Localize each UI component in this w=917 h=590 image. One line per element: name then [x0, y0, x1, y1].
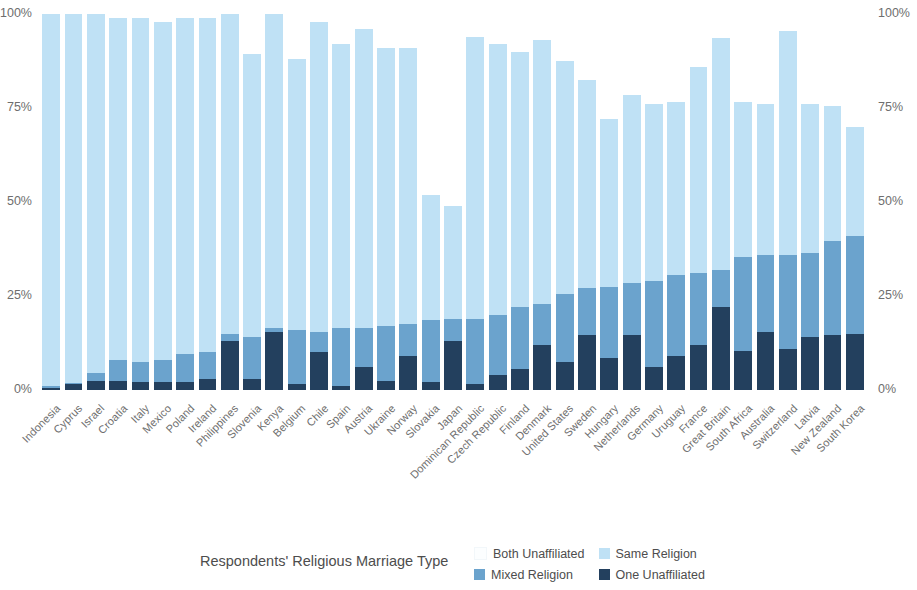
- bar-new-zealand[interactable]: [824, 14, 842, 390]
- bar-uruguay[interactable]: [667, 14, 685, 390]
- segment-mixed-religion: [422, 320, 440, 382]
- segment-same-religion: [846, 127, 864, 236]
- segment-mixed-religion: [399, 324, 417, 356]
- bar-sweden[interactable]: [578, 14, 596, 390]
- bar-hungary[interactable]: [600, 14, 618, 390]
- legend-items: Both UnaffiliatedSame ReligionMixed Reli…: [474, 543, 705, 585]
- segment-same-religion: [399, 48, 417, 324]
- bar-united-states[interactable]: [556, 14, 574, 390]
- legend-title: Respondents' Religious Marriage Type: [200, 553, 448, 569]
- segment-same-religion: [489, 44, 507, 315]
- bar-austria[interactable]: [355, 14, 373, 390]
- segment-mixed-religion: [623, 283, 641, 336]
- bar-poland[interactable]: [176, 14, 194, 390]
- bar-kenya[interactable]: [265, 14, 283, 390]
- bar-switzerland[interactable]: [779, 14, 797, 390]
- bar-croatia[interactable]: [109, 14, 127, 390]
- segment-same-religion: [824, 106, 842, 241]
- bar-netherlands[interactable]: [623, 14, 641, 390]
- legend-item-label: Mixed Religion: [491, 568, 573, 582]
- segment-same-religion: [578, 80, 596, 289]
- segment-same-religion: [332, 44, 350, 328]
- bar-spain[interactable]: [332, 14, 350, 390]
- segment-same-religion: [600, 119, 618, 286]
- bar-australia[interactable]: [757, 14, 775, 390]
- segment-mixed-religion: [690, 273, 708, 344]
- bar-italy[interactable]: [132, 14, 150, 390]
- bar-finland[interactable]: [511, 14, 529, 390]
- y-axis-tick-left: 75%: [7, 100, 32, 114]
- legend-item-label: One Unaffiliated: [616, 568, 705, 582]
- y-axis-tick-left: 25%: [7, 288, 32, 302]
- segment-mixed-religion: [377, 326, 395, 381]
- segment-same-religion: [690, 67, 708, 274]
- bar-slovakia[interactable]: [422, 14, 440, 390]
- y-axis-right: 0%25%50%75%100%: [872, 0, 917, 400]
- segment-mixed-religion: [489, 315, 507, 375]
- bar-indonesia[interactable]: [42, 14, 60, 390]
- legend-item-one[interactable]: One Unaffiliated: [599, 564, 705, 585]
- segment-same-religion: [466, 37, 484, 319]
- segment-same-religion: [221, 14, 239, 334]
- bar-great-britain[interactable]: [712, 14, 730, 390]
- bar-mexico[interactable]: [154, 14, 172, 390]
- bar-latvia[interactable]: [801, 14, 819, 390]
- legend-swatch-one-icon: [599, 569, 610, 580]
- bar-belgium[interactable]: [288, 14, 306, 390]
- segment-same-religion: [243, 54, 261, 338]
- bar-slovenia[interactable]: [243, 14, 261, 390]
- bar-czech-republic[interactable]: [489, 14, 507, 390]
- bar-south-africa[interactable]: [734, 14, 752, 390]
- segment-mixed-religion: [243, 337, 261, 378]
- segment-mixed-religion: [221, 334, 239, 342]
- bar-cyprus[interactable]: [65, 14, 83, 390]
- segment-mixed-religion: [444, 319, 462, 342]
- segment-same-religion: [109, 18, 127, 360]
- bar-dominican-republic[interactable]: [466, 14, 484, 390]
- legend-item-same[interactable]: Same Religion: [599, 543, 705, 564]
- segment-same-religion: [132, 18, 150, 362]
- segment-mixed-religion: [332, 328, 350, 386]
- legend-item-label: Both Unaffiliated: [493, 547, 585, 561]
- bar-france[interactable]: [690, 14, 708, 390]
- segment-same-religion: [712, 38, 730, 269]
- segment-same-religion: [533, 40, 551, 303]
- segment-mixed-religion: [578, 288, 596, 335]
- legend-item-both[interactable]: Both Unaffiliated: [474, 543, 585, 564]
- segment-same-religion: [645, 104, 663, 281]
- segment-same-religion: [265, 14, 283, 328]
- segment-mixed-religion: [734, 257, 752, 351]
- segment-mixed-religion: [846, 236, 864, 334]
- segment-mixed-religion: [645, 281, 663, 367]
- x-axis-labels: IndonesiaCyprusIsraelCroatiaItalyMexicoP…: [0, 392, 917, 492]
- bar-south-korea[interactable]: [846, 14, 864, 390]
- segment-mixed-religion: [109, 360, 127, 381]
- y-axis-left: 0%25%50%75%100%: [0, 0, 36, 400]
- bar-japan[interactable]: [444, 14, 462, 390]
- segment-same-religion: [310, 22, 328, 332]
- legend-item-mixed[interactable]: Mixed Religion: [474, 564, 585, 585]
- segment-same-religion: [556, 61, 574, 294]
- segment-mixed-religion: [310, 332, 328, 353]
- segment-mixed-religion: [154, 360, 172, 383]
- segment-same-religion: [757, 104, 775, 254]
- bar-israel[interactable]: [87, 14, 105, 390]
- chart-legend: Respondents' Religious Marriage Type Bot…: [0, 543, 917, 590]
- segment-same-religion: [42, 14, 60, 386]
- legend-swatch-mixed-icon: [474, 569, 485, 580]
- bar-philippines[interactable]: [221, 14, 239, 390]
- bar-group: [40, 14, 866, 390]
- segment-mixed-religion: [600, 287, 618, 358]
- bar-chile[interactable]: [310, 14, 328, 390]
- bar-norway[interactable]: [399, 14, 417, 390]
- segment-mixed-religion: [757, 255, 775, 332]
- segment-mixed-religion: [667, 275, 685, 356]
- bar-germany[interactable]: [645, 14, 663, 390]
- segment-same-religion: [801, 104, 819, 253]
- segment-same-religion: [779, 31, 797, 255]
- segment-mixed-religion: [199, 352, 217, 378]
- bar-ukraine[interactable]: [377, 14, 395, 390]
- segment-mixed-religion: [824, 241, 842, 335]
- bar-ireland[interactable]: [199, 14, 217, 390]
- y-axis-tick-right: 25%: [878, 288, 903, 302]
